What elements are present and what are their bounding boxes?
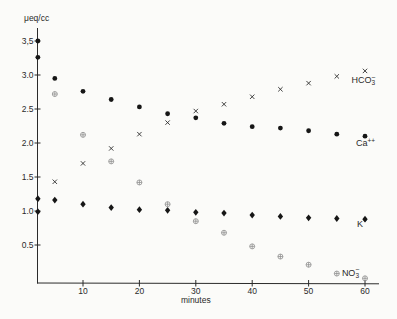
HCO3--point (363, 69, 367, 73)
K+-point (250, 212, 255, 219)
Ca++-point (165, 111, 170, 116)
K+-point (35, 208, 40, 215)
HCO3--point (250, 95, 254, 99)
HCO3--point (278, 87, 282, 91)
Ca++-point (334, 132, 339, 137)
figure: μeq/cc0.51.01.52.02.53.03,5102030405060m… (0, 0, 397, 319)
Ca++-point (193, 115, 198, 120)
Ca++-point (306, 128, 311, 133)
K+-point (165, 207, 170, 214)
K+-point (193, 209, 198, 216)
y-tick-label: 3.0 (22, 70, 34, 80)
HCO3--point (222, 102, 226, 106)
x-axis (37, 283, 379, 284)
K+-point (221, 210, 226, 217)
Ca++-point (137, 105, 142, 110)
x-tick-label: 20 (135, 286, 145, 296)
scatter-chart: μeq/cc0.51.01.52.02.53.03,5102030405060m… (0, 0, 397, 319)
x-tick-label: 50 (304, 286, 314, 296)
y-tick-label: 1.5 (22, 172, 34, 182)
Ca++-point (278, 126, 283, 131)
K+-point (35, 195, 40, 202)
HCO3--point (53, 180, 57, 184)
y-tick-label: 2.5 (22, 104, 34, 114)
HCO3--point (81, 161, 85, 165)
y-tick-label: 2.0 (22, 138, 34, 148)
HCO3--point (109, 146, 113, 150)
K+-point (278, 213, 283, 220)
HCO3--point (194, 109, 198, 113)
y-axis-label: μeq/cc (24, 13, 50, 23)
Ca++-point (363, 134, 368, 139)
K+-point (137, 206, 142, 213)
K+-point (109, 204, 114, 211)
HCO3--point (306, 81, 310, 85)
NO3--series: NO3− (342, 266, 360, 279)
K+-point (334, 215, 339, 222)
x-axis-label: minutes (181, 295, 211, 305)
Ca++-point (81, 89, 86, 94)
Ca++-series: Ca++ (356, 137, 375, 149)
K+-point (52, 197, 57, 204)
y-tick-label: 3,5 (22, 36, 34, 46)
HCO3--point (165, 120, 169, 124)
K+-point (306, 214, 311, 221)
NO3--label: NO3− (342, 266, 360, 279)
Ca++-point (35, 39, 40, 44)
Ca++-point (222, 121, 227, 126)
Ca++-label: Ca++ (356, 137, 375, 149)
Ca++-point (35, 55, 40, 60)
Ca++-point (52, 76, 57, 81)
y-tick-label: 1.0 (22, 206, 34, 216)
Ca++-point (250, 124, 255, 129)
Ca++-point (109, 97, 114, 102)
HCO3--series: HCO3− (351, 74, 375, 87)
HCO3--point (335, 74, 339, 78)
y-tick-label: 0.5 (22, 240, 34, 250)
x-tick-label: 40 (247, 286, 257, 296)
HCO3--point (137, 132, 141, 136)
x-tick-label: 60 (360, 286, 370, 296)
K+-point (80, 201, 85, 208)
x-tick-label: 10 (78, 286, 88, 296)
HCO3--label: HCO3− (351, 74, 375, 87)
